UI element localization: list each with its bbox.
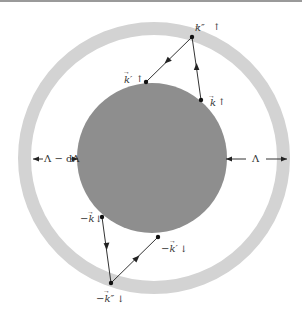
inner-cutoff-dimension: Λ − dΛ <box>33 153 80 164</box>
svg-text:↓: ↓ <box>117 294 125 304</box>
point-neg-k-double-prime <box>109 281 113 285</box>
arrow-down-icon <box>104 242 110 250</box>
svg-text:↑: ↑ <box>218 97 226 107</box>
point-k-prime <box>144 80 148 84</box>
arrow-up-icon <box>194 63 200 70</box>
svg-text:Λ: Λ <box>251 153 260 164</box>
point-neg-k-prime <box>156 235 160 239</box>
svg-text:↓: ↓ <box>95 214 103 224</box>
svg-text:−k′: −k′ <box>161 243 178 254</box>
svg-text:−k: −k <box>80 213 94 224</box>
svg-text:↓: ↓ <box>180 244 188 254</box>
point-k-double-prime <box>190 35 194 39</box>
svg-text:↑: ↑ <box>213 22 221 32</box>
point-k <box>199 98 203 102</box>
label-k-prime-up: → k′ ↑ <box>123 68 144 85</box>
momentum-shell-diagram: → k″ ↑ → k′ ↑ → k ↑ → −k ↓ → −k′ ↓ → −k″… <box>0 0 302 319</box>
svg-text:−k″: −k″ <box>96 293 114 304</box>
label-k-double-prime-up: → k″ ↑ <box>194 22 221 33</box>
svg-text:k′: k′ <box>124 74 133 85</box>
inner-fermi-sphere <box>77 83 227 233</box>
svg-text:k: k <box>210 97 216 108</box>
label-k-up: → k ↑ <box>208 92 226 108</box>
svg-text:k″: k″ <box>195 22 205 33</box>
svg-text:↑: ↑ <box>136 74 144 84</box>
label-neg-k-prime-down: → −k′ ↓ <box>161 237 188 254</box>
